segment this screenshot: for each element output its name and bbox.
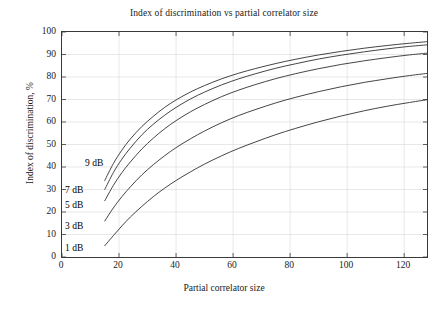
x-tick-label: 0 bbox=[41, 260, 81, 270]
y-tick-label: 100 bbox=[16, 26, 56, 36]
series-annotation-label: 5 dB bbox=[65, 200, 83, 210]
y-tick-label: 80 bbox=[16, 71, 56, 81]
x-tick-label: 60 bbox=[212, 260, 252, 270]
chart-figure: Index of discrimination vs partial corre… bbox=[0, 0, 448, 310]
y-tick-label: 10 bbox=[16, 229, 56, 239]
series-annotation-label: 3 dB bbox=[65, 221, 83, 231]
series-line bbox=[105, 73, 427, 221]
series-line bbox=[105, 42, 427, 181]
series-annotation-label: 7 dB bbox=[65, 185, 83, 195]
y-tick-label: 20 bbox=[16, 206, 56, 216]
plot-area bbox=[61, 31, 428, 258]
series-annotation-label: 1 dB bbox=[65, 243, 83, 253]
x-tick-label: 120 bbox=[383, 260, 423, 270]
y-tick-label: 40 bbox=[16, 161, 56, 171]
series-annotation-label: 9 dB bbox=[85, 158, 103, 168]
y-tick-label: 30 bbox=[16, 184, 56, 194]
x-tick-label: 80 bbox=[269, 260, 309, 270]
x-tick-label: 20 bbox=[98, 260, 138, 270]
y-tick-label: 70 bbox=[16, 94, 56, 104]
gridlines bbox=[62, 32, 427, 257]
series-line bbox=[105, 100, 427, 246]
x-tick-label: 40 bbox=[155, 260, 195, 270]
series-lines bbox=[105, 42, 427, 246]
series-line bbox=[105, 53, 427, 201]
y-axis-title: Index of discrimination, % bbox=[25, 33, 35, 233]
y-tick-label: 50 bbox=[16, 139, 56, 149]
x-axis-title: Partial correlator size bbox=[0, 283, 448, 293]
x-tick-label: 100 bbox=[326, 260, 366, 270]
plot-canvas bbox=[62, 32, 427, 257]
chart-title: Index of discrimination vs partial corre… bbox=[0, 8, 448, 18]
y-tick-label: 90 bbox=[16, 49, 56, 59]
series-line bbox=[105, 45, 427, 190]
y-tick-label: 60 bbox=[16, 116, 56, 126]
